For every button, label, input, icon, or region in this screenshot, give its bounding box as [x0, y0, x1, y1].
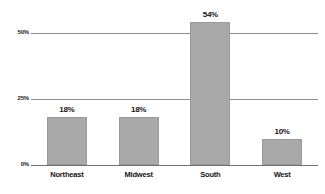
x-axis-category-label-northeast: Northeast — [27, 170, 107, 179]
gridline-25 — [31, 99, 318, 100]
bar-midwest[interactable] — [119, 117, 159, 165]
y-axis-tick-label-0: 0% — [3, 161, 29, 168]
x-axis-category-label-midwest: Midwest — [99, 170, 179, 179]
bar-value-label-south: 54% — [180, 10, 240, 19]
x-axis-category-label-south: South — [170, 170, 250, 179]
bar-value-label-midwest: 18% — [109, 105, 169, 114]
bar-value-label-northeast: 18% — [37, 105, 97, 114]
bar-value-label-west: 10% — [252, 127, 312, 136]
y-axis-tick-label-50: 50% — [3, 29, 29, 36]
bar-south[interactable] — [190, 22, 230, 165]
x-axis-baseline — [31, 165, 318, 166]
bar-chart: 50% 25% 0% 18%Northeast18%Midwest54%Sout… — [0, 0, 325, 194]
y-axis-tick-label-25: 25% — [3, 95, 29, 102]
bar-west[interactable] — [262, 139, 302, 165]
x-axis-category-label-west: West — [242, 170, 322, 179]
gridline-50 — [31, 33, 318, 34]
bar-northeast[interactable] — [47, 117, 87, 165]
